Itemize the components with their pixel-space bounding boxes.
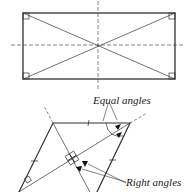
- right-angles-pointer-1: [82, 169, 126, 182]
- right-angle-mark-br: [169, 73, 175, 79]
- arrowhead-right-2: [82, 161, 88, 167]
- right-angle-marks-center: [65, 151, 79, 165]
- arrowheads: [76, 124, 122, 172]
- equal-angles-pointer-1: [103, 104, 108, 121]
- right-angles-pointer-2: [88, 164, 126, 183]
- tick-mark-top: [88, 120, 89, 126]
- right-angle-mark-bl: [23, 73, 29, 79]
- rhombus-diagonal-extension-right: [130, 113, 147, 123]
- arrowhead-equal-2: [116, 132, 122, 138]
- rectangle-figure: [11, 1, 184, 90]
- right-angle-mark-tr: [169, 13, 175, 19]
- right-angle-mark-tl: [23, 13, 29, 19]
- equal-angles-pointer-2: [110, 104, 117, 120]
- equal-angles-label: Equal angles: [93, 95, 151, 106]
- rhombus-diagonal-extension-top: [44, 106, 53, 123]
- right-angles-label: Right angles: [126, 177, 181, 188]
